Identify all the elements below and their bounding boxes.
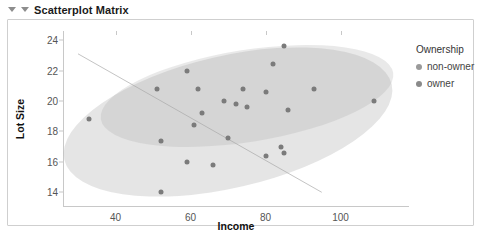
legend-item-label: owner [427, 78, 454, 89]
data-point[interactable] [282, 44, 287, 49]
data-point[interactable] [211, 162, 216, 167]
y-axis-tick-mark [59, 131, 63, 132]
data-point[interactable] [192, 123, 197, 128]
legend-title: Ownership [416, 44, 481, 55]
y-axis-tick-label: 18 [47, 126, 58, 137]
y-axis-tick-mark [59, 101, 63, 102]
data-point[interactable] [312, 86, 317, 91]
legend-item-label: non-owner [427, 61, 474, 72]
x-axis-line [63, 206, 409, 207]
legend-item-owner[interactable]: owner [416, 78, 481, 89]
data-point[interactable] [87, 117, 92, 122]
y-axis-tick-label: 20 [47, 96, 58, 107]
data-point[interactable] [199, 111, 204, 116]
y-axis-tick-mark [59, 161, 63, 162]
panel-titlebar: Scatterplot Matrix [0, 0, 481, 19]
legend-item-non-owner[interactable]: non-owner [416, 61, 481, 72]
x-axis-tick-label: 60 [185, 212, 196, 223]
data-point[interactable] [233, 102, 238, 107]
chart-card: Lot Size Income 141618202224406080100 Ow… [7, 19, 474, 226]
scatterplot-matrix-panel: Scatterplot Matrix Lot Size Income 14161… [0, 0, 481, 250]
y-axis-tick-mark [59, 192, 63, 193]
data-point[interactable] [154, 86, 159, 91]
x-axis-tick-mark [116, 31, 117, 35]
legend: Ownership non-ownerowner [416, 44, 481, 95]
data-point[interactable] [278, 144, 283, 149]
y-axis-tick-label: 22 [47, 65, 58, 76]
x-axis-tick-label: 40 [110, 212, 121, 223]
y-axis-tick-mark [59, 70, 63, 71]
data-point[interactable] [282, 150, 287, 155]
data-point[interactable] [184, 159, 189, 164]
x-axis-tick-label: 100 [332, 212, 349, 223]
chevron-down-icon-inner[interactable] [21, 7, 29, 12]
data-point[interactable] [222, 99, 227, 104]
legend-swatch-icon [416, 64, 422, 70]
y-axis-tick-label: 16 [47, 156, 58, 167]
x-axis-tick-mark [341, 31, 342, 35]
data-point[interactable] [263, 153, 268, 158]
x-axis-tick-mark [266, 31, 267, 35]
data-point[interactable] [244, 105, 249, 110]
y-axis-tick-mark [59, 40, 63, 41]
y-axis-tick-label: 24 [47, 35, 58, 46]
data-point[interactable] [286, 108, 291, 113]
data-point[interactable] [226, 135, 231, 140]
data-point[interactable] [158, 138, 163, 143]
x-axis-tick-mark [191, 31, 192, 35]
y-axis-label: Lot Size [14, 99, 26, 139]
x-axis-tick-label: 80 [260, 212, 271, 223]
plot-area: 141618202224406080100 [63, 31, 408, 206]
data-point[interactable] [184, 68, 189, 73]
data-point[interactable] [158, 190, 163, 195]
data-point[interactable] [271, 62, 276, 67]
page-title: Scatterplot Matrix [34, 4, 129, 16]
data-point[interactable] [263, 89, 268, 94]
x-axis-label: Income [218, 220, 255, 232]
data-point[interactable] [241, 86, 246, 91]
y-axis-tick-label: 14 [47, 187, 58, 198]
chevron-down-icon-outer[interactable] [8, 7, 16, 12]
data-point[interactable] [196, 86, 201, 91]
data-point[interactable] [372, 99, 377, 104]
legend-swatch-icon [416, 81, 422, 87]
